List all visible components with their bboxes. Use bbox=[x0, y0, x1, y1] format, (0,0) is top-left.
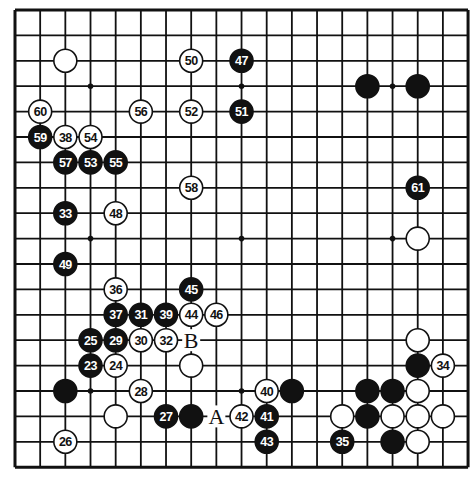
black-stone bbox=[381, 430, 404, 453]
white-stone bbox=[406, 380, 429, 403]
move-number: 54 bbox=[84, 131, 97, 145]
move-number: 59 bbox=[34, 131, 47, 145]
black-stone-57: 57 bbox=[54, 151, 77, 174]
move-number: 39 bbox=[160, 308, 173, 322]
star-point bbox=[88, 236, 94, 242]
black-stone-47: 47 bbox=[230, 49, 253, 72]
white-stone-48: 48 bbox=[104, 202, 127, 225]
position-label-b: B bbox=[184, 328, 199, 353]
black-stone-29: 29 bbox=[104, 329, 127, 352]
white-stone-40: 40 bbox=[255, 380, 278, 403]
move-number: 35 bbox=[336, 435, 349, 449]
black-stone-23: 23 bbox=[79, 354, 102, 377]
star-point bbox=[239, 236, 245, 242]
stone-disc bbox=[54, 380, 77, 403]
move-number: 42 bbox=[235, 410, 248, 424]
move-number: 36 bbox=[109, 283, 122, 297]
star-point bbox=[390, 236, 396, 242]
move-number: 48 bbox=[109, 207, 122, 221]
black-stone-53: 53 bbox=[79, 151, 102, 174]
black-stone-37: 37 bbox=[104, 303, 127, 326]
move-number: 38 bbox=[59, 131, 72, 145]
black-stone-31: 31 bbox=[129, 303, 152, 326]
move-number: 58 bbox=[185, 181, 198, 195]
stone-disc bbox=[381, 405, 404, 428]
stone-disc bbox=[356, 75, 379, 98]
stone-disc bbox=[381, 380, 404, 403]
white-stone bbox=[406, 227, 429, 250]
move-number: 31 bbox=[134, 308, 147, 322]
black-stone-41: 41 bbox=[255, 405, 278, 428]
white-stone-44: 44 bbox=[180, 303, 203, 326]
move-number: 37 bbox=[109, 308, 122, 322]
move-number: 33 bbox=[59, 207, 72, 221]
star-point bbox=[88, 388, 94, 394]
black-stone bbox=[356, 380, 379, 403]
stone-disc bbox=[356, 405, 379, 428]
move-number: 44 bbox=[185, 308, 198, 322]
black-stone-45: 45 bbox=[180, 278, 203, 301]
black-stone-27: 27 bbox=[155, 405, 178, 428]
white-stone bbox=[381, 405, 404, 428]
white-stone-34: 34 bbox=[431, 354, 454, 377]
white-stone-30: 30 bbox=[129, 329, 152, 352]
move-number: 29 bbox=[109, 334, 122, 348]
stone-disc bbox=[406, 430, 429, 453]
move-number: 57 bbox=[59, 156, 72, 170]
black-stone-43: 43 bbox=[255, 430, 278, 453]
move-number: 27 bbox=[160, 410, 173, 424]
move-number: 32 bbox=[160, 334, 173, 348]
stone-disc bbox=[406, 405, 429, 428]
white-stone-46: 46 bbox=[205, 303, 228, 326]
move-number: 47 bbox=[235, 54, 248, 68]
black-stone-25: 25 bbox=[79, 329, 102, 352]
stone-disc bbox=[104, 405, 127, 428]
black-stone-39: 39 bbox=[155, 303, 178, 326]
stone-disc bbox=[406, 227, 429, 250]
stone-disc bbox=[54, 49, 77, 72]
move-number: 41 bbox=[260, 410, 273, 424]
star-point bbox=[239, 388, 245, 394]
stone-disc bbox=[280, 380, 303, 403]
white-stone-56: 56 bbox=[129, 100, 152, 123]
move-number: 50 bbox=[185, 54, 198, 68]
stone-disc bbox=[406, 329, 429, 352]
move-number: 49 bbox=[59, 258, 72, 272]
white-stone-36: 36 bbox=[104, 278, 127, 301]
black-stone-61: 61 bbox=[406, 176, 429, 199]
black-stone-35: 35 bbox=[331, 430, 354, 453]
black-stone bbox=[356, 75, 379, 98]
white-stone bbox=[406, 405, 429, 428]
star-point bbox=[88, 83, 94, 89]
white-stone-26: 26 bbox=[54, 430, 77, 453]
move-number: 45 bbox=[185, 283, 198, 297]
black-stone bbox=[406, 75, 429, 98]
move-number: 25 bbox=[84, 334, 97, 348]
black-stone bbox=[280, 380, 303, 403]
white-stone-54: 54 bbox=[79, 126, 102, 149]
black-stone bbox=[54, 380, 77, 403]
white-stone-24: 24 bbox=[104, 354, 127, 377]
white-stone-42: 42 bbox=[230, 405, 253, 428]
stone-disc bbox=[180, 354, 203, 377]
white-stone-52: 52 bbox=[180, 100, 203, 123]
black-stone bbox=[180, 405, 203, 428]
black-stone bbox=[406, 354, 429, 377]
black-stone-49: 49 bbox=[54, 253, 77, 276]
move-number: 30 bbox=[134, 334, 147, 348]
move-number: 43 bbox=[260, 435, 273, 449]
position-label-a: A bbox=[208, 404, 224, 429]
white-stone bbox=[104, 405, 127, 428]
white-stone-58: 58 bbox=[180, 176, 203, 199]
stone-disc bbox=[356, 380, 379, 403]
star-point bbox=[390, 83, 396, 89]
move-number: 52 bbox=[185, 105, 198, 119]
stone-disc bbox=[406, 75, 429, 98]
move-number: 55 bbox=[109, 156, 122, 170]
white-stone-38: 38 bbox=[54, 126, 77, 149]
white-stone bbox=[431, 405, 454, 428]
move-number: 28 bbox=[134, 385, 147, 399]
white-stone bbox=[331, 405, 354, 428]
move-number: 56 bbox=[134, 105, 147, 119]
move-number: 34 bbox=[436, 359, 449, 373]
